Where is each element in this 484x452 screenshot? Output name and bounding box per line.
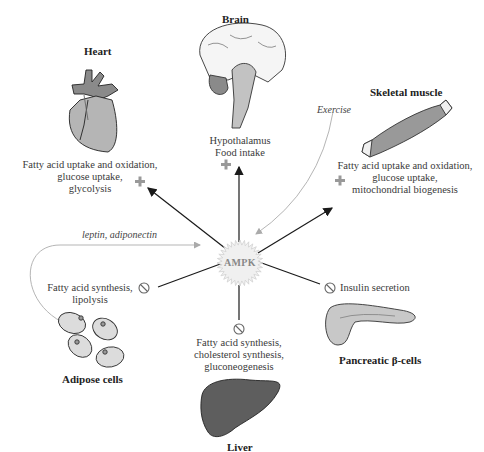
brain-title: Brain xyxy=(222,13,249,25)
pancreas-effect-line-1: Insulin secretion xyxy=(340,282,410,294)
exercise-label: Exercise xyxy=(317,104,351,115)
skeletal-muscle-effect-line-2: glucose uptake, xyxy=(325,172,484,184)
adipose-title: Adipose cells xyxy=(62,373,123,385)
plus-icon xyxy=(221,160,231,170)
heart-title: Heart xyxy=(84,45,111,57)
skeletal-muscle-illustration xyxy=(362,100,452,157)
liver-illustration xyxy=(201,379,280,436)
brain-effect-line-1: Hypothalamus xyxy=(190,135,290,147)
inhibit-icon xyxy=(234,324,244,334)
pancreas-title: Pancreatic β-cells xyxy=(339,354,421,366)
brain-illustration xyxy=(200,23,286,128)
exercise-arrow xyxy=(256,112,333,234)
liver-title: Liver xyxy=(227,441,253,452)
adipose-effect-line-2: lipolysis xyxy=(40,294,140,306)
brain-effect-line-2: Food intake xyxy=(190,147,290,159)
inhibit-icon xyxy=(325,283,335,293)
heart-effect-line-1: Fatty acid uptake and oxidation, xyxy=(15,159,165,171)
heart-effect-line-2: glucose uptake, xyxy=(15,171,165,183)
adipose-cells-illustration xyxy=(55,309,125,369)
leptin-adiponectin-label: leptin, adiponectin xyxy=(82,229,157,240)
inhibit-icon xyxy=(139,283,149,293)
skeletal-muscle-title: Skeletal muscle xyxy=(370,86,442,98)
ampk-diagram: AMPK Heart Fatty acid uptake and oxidati… xyxy=(0,0,484,452)
heart-illustration xyxy=(69,70,118,152)
pancreas-illustration xyxy=(326,304,416,345)
skeletal-muscle-effect-line-3: mitochondrial biogenesis xyxy=(325,184,484,196)
skeletal-muscle-effect-line-1: Fatty acid uptake and oxidation, xyxy=(325,160,484,172)
liver-effect-line-3: gluconeogenesis xyxy=(184,361,294,373)
liver-effect-line-1: Fatty acid synthesis, xyxy=(184,337,294,349)
ampk-label: AMPK xyxy=(224,257,256,268)
adipose-effect-line-1: Fatty acid synthesis, xyxy=(40,282,140,294)
heart-effect-line-3: glycolysis xyxy=(15,183,165,195)
liver-effect-line-2: cholesterol synthesis, xyxy=(184,349,294,361)
